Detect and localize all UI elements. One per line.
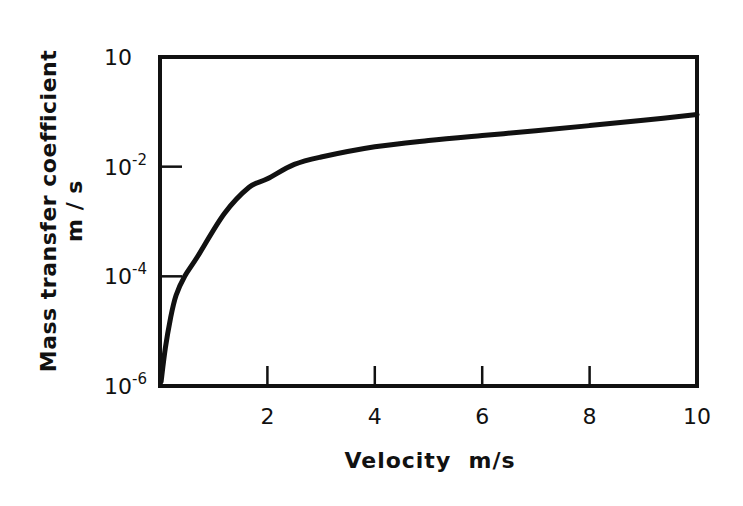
x-tick-label: 4 [368,404,382,429]
y-axis-label-title: Mass transfer coefficient [36,22,62,400]
x-tick-label: 10 [683,404,711,429]
x-tick-label: 2 [260,404,274,429]
x-axis-label: Velocity m/s [300,448,560,473]
plot-area: 246810 10-610-410-210 [0,0,743,506]
chart: 246810 10-610-410-210 Mass transfer coef… [0,0,743,506]
y-tick-label: 10-2 [104,151,147,180]
x-tick-label: 6 [475,404,489,429]
plot-frame [160,57,697,386]
series-line [161,115,697,382]
data-series [161,115,697,382]
y-axis-ticks: 10-610-410-210 [104,45,182,399]
axes-box [160,57,697,386]
x-tick-label: 8 [583,404,597,429]
x-axis-ticks: 246810 [260,366,711,429]
y-tick-label: 10-4 [104,260,147,289]
y-axis-label: Mass transfer coefficient m / s [22,22,102,400]
y-tick-label: 10 [104,45,132,70]
y-tick-label: 10-6 [104,370,147,399]
y-axis-label-unit: m / s [62,22,88,400]
